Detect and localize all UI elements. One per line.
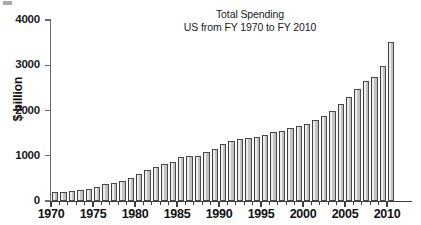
x-tick-1971 [59,202,60,205]
x-tick-label-2000: 2000 [281,208,325,221]
x-tick-1973 [76,202,77,205]
y-tick-label-3000: 3000 [0,59,40,71]
bar-1982 [153,167,160,201]
bar-1994 [254,137,261,201]
x-tick-label-1975: 1975 [71,208,115,221]
y-tick-0 [45,200,50,201]
bar-1973 [77,190,84,201]
x-tick-1984 [168,202,169,205]
x-tick-2004 [336,202,337,205]
x-tick-1978 [118,202,119,205]
x-tick-1994 [252,202,253,205]
x-tick-1998 [286,202,287,205]
bar-2007 [363,81,370,201]
bar-1987 [195,156,202,201]
x-tick-2001 [311,202,312,205]
bar-2003 [329,111,336,202]
bar-2000 [304,124,311,201]
bar-1988 [203,152,210,201]
bar-1978 [119,181,126,201]
bar-1980 [136,174,143,201]
bar-1977 [111,183,118,201]
bar-1983 [161,164,168,201]
y-tick-label-2000: 2000 [0,105,40,117]
x-tick-1987 [193,202,194,205]
bar-1984 [170,162,177,201]
scan-artifact [3,1,12,5]
bar-1995 [262,135,269,201]
x-tick-label-1990: 1990 [197,208,241,221]
x-tick-1989 [210,202,211,205]
x-tick-2002 [319,202,320,205]
x-tick-label-1995: 1995 [239,208,283,221]
bar-2004 [338,104,345,201]
x-tick-1972 [67,202,68,205]
y-tick-1000 [45,155,50,156]
bar-2009 [380,66,387,201]
x-tick-2003 [328,202,329,205]
y-tick-label-1000: 1000 [0,150,40,162]
bar-1971 [60,192,67,201]
x-tick-label-1970: 1970 [29,208,73,221]
x-tick-label-1985: 1985 [155,208,199,221]
x-tick-2007 [361,202,362,205]
bar-2002 [321,116,328,201]
bar-2006 [354,89,361,201]
bar-1991 [228,141,235,201]
x-tick-label-2010: 2010 [365,208,409,221]
x-tick-label-2005: 2005 [323,208,367,221]
x-tick-1991 [227,202,228,205]
x-axis-line [50,201,412,202]
bar-2005 [346,97,353,201]
x-tick-2008 [370,202,371,205]
y-tick-label-4000: 4000 [0,14,40,26]
x-tick-1979 [126,202,127,205]
x-tick-1988 [202,202,203,205]
bar-1996 [270,132,277,201]
bar-1993 [245,138,252,201]
x-tick-1974 [84,202,85,205]
y-tick-3000 [45,65,50,66]
bar-1976 [102,184,109,201]
y-tick-4000 [45,19,50,20]
x-tick-2006 [353,202,354,205]
bar-1979 [128,178,135,201]
x-tick-1996 [269,202,270,205]
x-tick-1976 [101,202,102,205]
bar-1974 [86,189,93,201]
chart-figure: Total Spending US from FY 1970 to FY 201… [0,0,421,225]
x-tick-1977 [109,202,110,205]
bar-1998 [287,128,294,201]
bar-1997 [279,131,286,201]
y-tick-2000 [45,110,50,111]
bar-1981 [144,170,151,201]
x-tick-1981 [143,202,144,205]
bar-1990 [220,144,227,201]
chart-title-line1: Total Spending [150,8,350,21]
bar-1970 [52,192,59,201]
x-tick-1997 [277,202,278,205]
x-tick-2009 [378,202,379,205]
x-tick-1999 [294,202,295,205]
x-tick-1983 [160,202,161,205]
y-tick-label-0: 0 [0,195,40,207]
x-tick-1992 [235,202,236,205]
bar-1999 [296,126,303,201]
x-tick-1982 [151,202,152,205]
bar-1985 [178,157,185,201]
bar-2001 [312,120,319,201]
x-tick-1986 [185,202,186,205]
bar-1972 [69,191,76,201]
x-tick-1993 [244,202,245,205]
bar-1992 [237,139,244,201]
bar-1989 [212,149,219,201]
x-tick-label-1980: 1980 [113,208,157,221]
plot-area [51,20,412,201]
bar-1986 [186,156,193,201]
bar-1975 [94,187,101,201]
bar-2010 [388,42,395,201]
bar-2008 [371,77,378,201]
